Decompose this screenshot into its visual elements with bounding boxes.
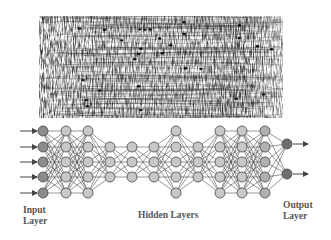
hidden10-node xyxy=(260,142,270,152)
neural-network-diagram xyxy=(0,0,331,240)
hidden1-node xyxy=(61,126,71,136)
input-label-line2: Layer xyxy=(23,216,47,227)
hidden1-node xyxy=(61,157,71,167)
hidden7-node xyxy=(193,142,203,152)
hidden6-node xyxy=(171,172,181,182)
hidden8-node xyxy=(215,172,225,182)
input-node xyxy=(38,172,48,182)
hidden10-node xyxy=(260,126,270,136)
hidden3-node xyxy=(105,157,115,167)
hidden8-node xyxy=(215,126,225,136)
hidden6-node xyxy=(171,126,181,136)
hidden5-node xyxy=(149,157,159,167)
hidden2-node xyxy=(83,172,93,182)
input-node xyxy=(38,157,48,167)
hidden1-node xyxy=(61,172,71,182)
hidden7-node xyxy=(193,172,203,182)
hidden3-node xyxy=(105,172,115,182)
input-node xyxy=(38,188,48,198)
hidden4-node xyxy=(127,172,137,182)
output-node xyxy=(282,139,292,149)
hidden6-node xyxy=(171,142,181,152)
hidden10-node xyxy=(260,188,270,198)
hidden5-node xyxy=(149,142,159,152)
hidden6-node xyxy=(171,157,181,167)
hidden8-node xyxy=(215,157,225,167)
hidden2-node xyxy=(83,157,93,167)
hidden4-node xyxy=(127,157,137,167)
hidden9-node xyxy=(237,188,247,198)
input-node xyxy=(38,142,48,152)
hidden4-node xyxy=(127,142,137,152)
input-layer-label: Input Layer xyxy=(23,205,47,227)
hidden9-node xyxy=(237,142,247,152)
hidden9-node xyxy=(237,126,247,136)
hidden5-node xyxy=(149,172,159,182)
input-node xyxy=(38,126,48,136)
hidden2-node xyxy=(83,188,93,198)
hidden6-node xyxy=(171,188,181,198)
output-node xyxy=(282,169,292,179)
output-label-line1: Output xyxy=(283,200,313,211)
hidden9-node xyxy=(237,172,247,182)
hidden8-node xyxy=(215,142,225,152)
input-label-line1: Input xyxy=(23,205,47,216)
hidden8-node xyxy=(215,188,225,198)
hidden9-node xyxy=(237,157,247,167)
hidden3-node xyxy=(105,142,115,152)
hidden2-node xyxy=(83,142,93,152)
output-layer-label: Output Layer xyxy=(283,200,313,222)
hidden1-node xyxy=(61,188,71,198)
hidden10-node xyxy=(260,172,270,182)
hidden-layers-label: Hidden Layers xyxy=(138,210,198,221)
hidden10-node xyxy=(260,157,270,167)
hidden7-node xyxy=(193,157,203,167)
hidden1-node xyxy=(61,142,71,152)
hidden2-node xyxy=(83,126,93,136)
output-label-line2: Layer xyxy=(283,211,313,222)
